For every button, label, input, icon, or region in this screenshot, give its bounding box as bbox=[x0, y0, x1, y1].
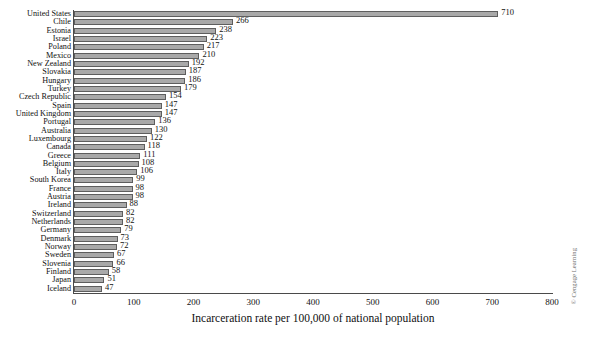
x-axis-line bbox=[73, 293, 553, 294]
x-tick-label: 300 bbox=[247, 296, 261, 308]
category-label: Iceland bbox=[47, 284, 71, 293]
bar bbox=[74, 244, 117, 250]
x-axis-tick-labels: 0100200300400500600700800 bbox=[74, 296, 552, 310]
bar bbox=[74, 128, 152, 134]
bar bbox=[74, 219, 123, 225]
bar bbox=[74, 119, 155, 125]
bar bbox=[74, 69, 186, 75]
bar bbox=[74, 36, 207, 42]
x-axis-title: Incarceration rate per 100,000 of nation… bbox=[74, 311, 552, 326]
x-tick-label: 0 bbox=[72, 296, 77, 308]
x-tick-label: 400 bbox=[306, 296, 320, 308]
bar bbox=[74, 169, 137, 175]
bar bbox=[74, 78, 185, 84]
bar bbox=[74, 194, 133, 200]
bar bbox=[74, 211, 123, 217]
bar bbox=[74, 186, 133, 192]
bar bbox=[74, 252, 114, 258]
bar-value-label: 47 bbox=[105, 283, 114, 292]
bar bbox=[74, 19, 233, 25]
category-axis: United StatesChileEstoniaIsraelPolandMex… bbox=[0, 10, 71, 293]
bar-value-label: 179 bbox=[184, 83, 197, 92]
x-tick-label: 100 bbox=[127, 296, 141, 308]
x-tick-label: 500 bbox=[366, 296, 380, 308]
bar bbox=[74, 277, 104, 283]
plot-area: 7102662382232172101921871861791541471471… bbox=[74, 10, 552, 293]
bar bbox=[74, 111, 162, 117]
bar bbox=[74, 144, 145, 150]
bar bbox=[74, 161, 139, 167]
x-tick-label: 600 bbox=[426, 296, 440, 308]
x-tick-label: 800 bbox=[545, 296, 559, 308]
bar bbox=[74, 103, 162, 109]
bar bbox=[74, 44, 204, 50]
bar bbox=[74, 202, 127, 208]
bar bbox=[74, 236, 118, 242]
bar bbox=[74, 227, 121, 233]
incarceration-rate-bar-chart: United StatesChileEstoniaIsraelPolandMex… bbox=[0, 0, 589, 347]
bar bbox=[74, 28, 216, 34]
bar bbox=[74, 136, 147, 142]
bar bbox=[74, 86, 181, 92]
bar bbox=[74, 261, 113, 267]
copyright-credit: © Cengage Learning bbox=[570, 248, 578, 304]
bar bbox=[74, 286, 102, 292]
bar-value-label: 266 bbox=[236, 16, 249, 25]
bar bbox=[74, 11, 498, 17]
bar bbox=[74, 61, 189, 67]
bar bbox=[74, 53, 199, 59]
bar bbox=[74, 177, 133, 183]
bar-value-label: 710 bbox=[501, 8, 514, 17]
x-tick-label: 200 bbox=[187, 296, 201, 308]
bar bbox=[74, 269, 109, 275]
bar bbox=[74, 94, 166, 100]
x-tick-label: 700 bbox=[486, 296, 500, 308]
bar bbox=[74, 153, 140, 159]
